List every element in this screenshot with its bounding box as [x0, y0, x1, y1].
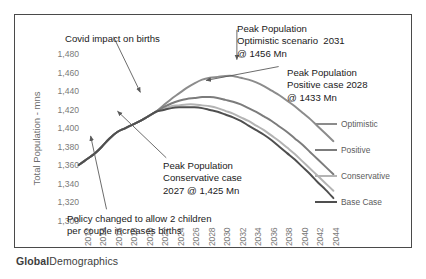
legend-label: Positive — [341, 145, 370, 155]
legend-swatch — [315, 201, 337, 203]
legend-label: Base Case — [341, 197, 382, 207]
annotation-optimistic: Peak Population Optimistic scenario 2031… — [237, 23, 345, 60]
brand-bold: Global — [16, 255, 49, 267]
legend-swatch — [315, 175, 337, 177]
annotation-conservative: Peak Population Conservative case 2027 @… — [163, 160, 242, 197]
chart-screenshot: Total Population - mns 1,4801,4601,4401,… — [0, 0, 426, 279]
chart-frame: Total Population - mns 1,4801,4601,4401,… — [14, 14, 412, 248]
policy-arrow — [91, 136, 107, 209]
brand-regular: Demographics — [49, 255, 118, 267]
chart-legend: OptimisticPositiveConservativeBase Case — [315, 111, 407, 215]
legend-label: Conservative — [341, 171, 390, 181]
conservative-arrow — [117, 111, 166, 158]
annotation-positive: Peak Population Positive case 2028 @ 143… — [287, 67, 368, 104]
brand-logo: GlobalDemographics — [16, 255, 118, 267]
legend-label: Optimistic — [341, 119, 378, 129]
legend-item[interactable]: Conservative — [315, 163, 407, 189]
legend-item[interactable]: Optimistic — [315, 111, 407, 137]
annotation-policy: Policy changed to allow 2 children per c… — [67, 213, 212, 238]
legend-swatch — [315, 123, 337, 125]
annotation-covid: Covid impact on births — [65, 33, 160, 45]
legend-swatch — [315, 149, 337, 151]
positive-arrow — [206, 67, 279, 81]
legend-item[interactable]: Base Case — [315, 189, 407, 215]
legend-item[interactable]: Positive — [315, 137, 407, 163]
